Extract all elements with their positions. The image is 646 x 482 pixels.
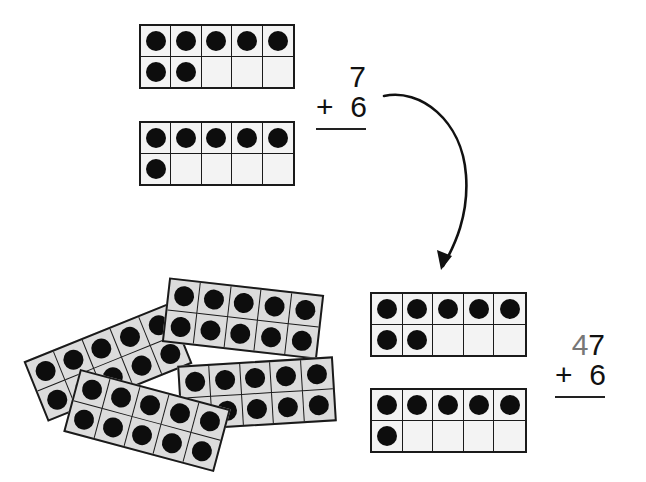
counter-dot-icon xyxy=(117,324,143,350)
counter-dot-icon xyxy=(260,326,282,348)
ten-frame-cell xyxy=(494,421,525,452)
counter-dot-icon xyxy=(72,407,96,431)
counter-dot-icon xyxy=(101,415,125,439)
ten-frame-cell xyxy=(301,358,333,390)
counter-dot-icon xyxy=(80,377,104,401)
ten-frame-cell xyxy=(372,390,403,421)
ten-frame-cell xyxy=(433,325,464,356)
counter-dot-icon xyxy=(469,395,489,415)
counter-dot-icon xyxy=(247,398,268,419)
ten-frame-cell xyxy=(183,432,220,469)
ten-frame-cell xyxy=(372,421,403,452)
equation-bottom-rule xyxy=(555,396,605,398)
plus-sign: + xyxy=(555,358,573,391)
counter-dot-icon xyxy=(377,299,397,319)
ten-frame-cell xyxy=(210,364,242,396)
ten-frame-cell xyxy=(433,390,464,421)
ten-frame-cell xyxy=(464,390,495,421)
counter-dot-icon xyxy=(169,316,191,338)
counter-dot-icon xyxy=(60,346,86,372)
counter-dot-icon xyxy=(160,431,184,455)
counter-dot-icon xyxy=(230,323,252,345)
counter-dot-icon xyxy=(168,401,192,425)
ten-frame-cell xyxy=(464,294,495,325)
ten-frame-cell xyxy=(224,317,258,351)
counter-dot-icon xyxy=(157,341,183,367)
counter-dot-icon xyxy=(500,299,520,319)
ten-frame-cell xyxy=(288,293,322,327)
equation-bottom-addend2: + 6 xyxy=(555,360,605,390)
equation-bottom-bottom-number: 6 xyxy=(589,358,606,391)
ten-frame-cell xyxy=(372,325,403,356)
counter-dot-icon xyxy=(184,371,205,392)
ten-frame-cell xyxy=(228,286,262,320)
ten-frame-cell xyxy=(272,391,304,423)
counter-dot-icon xyxy=(294,299,316,321)
ten-frame-cell xyxy=(464,325,495,356)
counter-dot-icon xyxy=(377,330,397,350)
ten-frame-bottom-2 xyxy=(370,388,527,453)
ten-frame-cell xyxy=(270,360,302,392)
ten-frame-cell xyxy=(372,294,403,325)
counter-dot-icon xyxy=(130,423,154,447)
counter-dot-icon xyxy=(275,365,296,386)
tens-digit: 4 xyxy=(572,328,589,361)
counter-dot-icon xyxy=(215,369,236,390)
ten-frame-cell xyxy=(194,313,228,347)
ten-frame-cell xyxy=(464,421,495,452)
ten-frame-cell xyxy=(403,421,434,452)
counter-dot-icon xyxy=(190,439,214,463)
ten-frame-bottom-1 xyxy=(370,292,527,357)
ten-frame-cell xyxy=(258,290,292,324)
ten-frame-cell xyxy=(303,389,335,421)
counter-dot-icon xyxy=(109,385,133,409)
ten-frame-cell xyxy=(164,310,198,344)
ten-frame-cell xyxy=(167,280,201,314)
counter-dot-icon xyxy=(438,395,458,415)
counter-dot-icon xyxy=(44,387,70,413)
counter-dot-icon xyxy=(438,299,458,319)
ten-frame-cell xyxy=(240,362,272,394)
counter-dot-icon xyxy=(138,393,162,417)
ten-frame-cell xyxy=(403,294,434,325)
ten-frame-cell xyxy=(403,325,434,356)
ten-frame-cell xyxy=(494,325,525,356)
counter-dot-icon xyxy=(407,299,427,319)
ten-frame-cell xyxy=(242,393,274,425)
counter-dot-icon xyxy=(407,395,427,415)
counter-dot-icon xyxy=(306,363,327,384)
ten-frame-cell xyxy=(433,294,464,325)
counter-dot-icon xyxy=(233,292,255,314)
counter-dot-icon xyxy=(203,288,225,310)
ten-frame-cell xyxy=(494,294,525,325)
ten-frame-cell xyxy=(255,320,289,354)
counter-dot-icon xyxy=(89,335,115,361)
ten-frame-cell xyxy=(179,366,211,398)
counter-dot-icon xyxy=(277,396,298,417)
equation-bottom-addend1: 47 xyxy=(555,330,605,360)
counter-dot-icon xyxy=(263,295,285,317)
counter-dot-icon xyxy=(308,394,329,415)
ten-frame-cell xyxy=(403,390,434,421)
counter-dot-icon xyxy=(245,367,266,388)
counter-dot-icon xyxy=(32,358,58,384)
ten-frame-cell xyxy=(285,324,319,358)
counter-dot-icon xyxy=(469,299,489,319)
ten-frame-cell xyxy=(433,421,464,452)
ten-frame-cell xyxy=(494,390,525,421)
counter-dot-icon xyxy=(377,426,397,446)
ones-digit: 7 xyxy=(588,328,605,361)
counter-dot-icon xyxy=(291,329,313,351)
counter-dot-icon xyxy=(500,395,520,415)
counter-dot-icon xyxy=(128,352,154,378)
counter-dot-icon xyxy=(173,285,195,307)
ten-frame-cell xyxy=(198,283,232,317)
counter-dot-icon xyxy=(407,330,427,350)
counter-dot-icon xyxy=(198,409,222,433)
equation-bottom: 47 + 6 xyxy=(555,330,605,398)
counter-dot-icon xyxy=(199,319,221,341)
counter-dot-icon xyxy=(377,395,397,415)
